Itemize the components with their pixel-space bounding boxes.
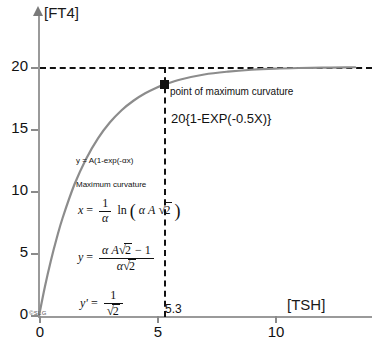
formula-y-fraction: α A√2 − 1 α√2 [99, 243, 154, 274]
formula-yprime-radicand: 2 [112, 304, 120, 319]
formula-y-denominator: α√2 [99, 259, 154, 274]
formula-y-prime: y' = 1 √2 [80, 289, 126, 319]
formula-y-numerator: α A√2 − 1 [99, 243, 154, 259]
model-expression-annotation: 20{1-EXP(-0.5X)} [171, 111, 271, 126]
formula-x-lhs: x [78, 203, 83, 217]
formula-y-num-minus-one: − 1 [135, 243, 151, 257]
formula-yprime-fraction: 1 √2 [104, 289, 123, 319]
formula-yprime-equals: = [91, 296, 98, 310]
exponential-curve [39, 67, 355, 316]
formula-x-denominator: α [99, 212, 111, 226]
formula-y-lhs: y [78, 250, 83, 264]
max-curvature-annotation: point of maximum curvature [170, 86, 293, 97]
formula-x-ln: ln [117, 203, 126, 217]
max-curvature-heading: Maximum curvature [76, 180, 146, 189]
x-marker-value-label: 5.3 [165, 302, 182, 316]
formula-x-open-paren: ( [130, 201, 136, 221]
formula-x-max-curvature: x = 1 α ln ( α A √2 ) [78, 197, 181, 226]
formula-yprime-numerator: 1 [104, 289, 123, 304]
formula-y-equals: = [86, 250, 93, 264]
general-model-annotation: y = A(1-exp(-αx) [76, 156, 133, 165]
formula-y-num-radicand: 2 [124, 243, 132, 258]
formula-x-equals: = [86, 203, 93, 217]
max-curvature-marker [160, 80, 169, 89]
formula-y-max-curvature: y = α A√2 − 1 α√2 [78, 243, 157, 274]
formula-y-den-radicand: 2 [128, 259, 136, 274]
formula-y-num-alpha-a: α A [102, 243, 119, 257]
curve-plot [0, 0, 384, 353]
formula-yprime-denominator: √2 [104, 304, 123, 319]
chart-figure: [FT4] [TSH] 20 15 10 5 0 0 5 10 point of… [0, 0, 384, 353]
formula-x-inner: α A [139, 203, 156, 217]
formula-x-radicand: 2 [164, 202, 172, 218]
formula-yprime-lhs: y' [80, 296, 88, 310]
formula-x-numerator: 1 [99, 197, 111, 212]
formula-x-close-paren: ) [175, 201, 181, 221]
formula-x-fraction: 1 α [99, 197, 111, 226]
watermark-label: ©SLG [29, 310, 47, 316]
